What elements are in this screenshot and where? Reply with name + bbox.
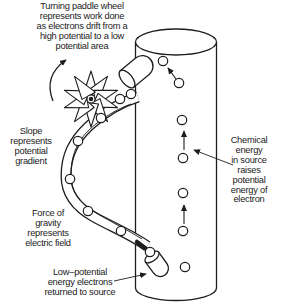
label-line: potential area — [37, 42, 128, 52]
electron-circle-icon — [178, 226, 187, 235]
electron-circle-icon — [178, 153, 187, 162]
cylinder-top-ellipse — [136, 29, 217, 55]
paddle-axle — [89, 97, 92, 100]
label-line: electric field — [25, 239, 71, 249]
source-up-arrows — [168, 68, 184, 224]
electron-circle-icon — [177, 115, 186, 124]
electron-circle-icon — [83, 206, 92, 215]
electron-circle-icon — [126, 89, 135, 98]
rotation-arrow-icon — [50, 60, 66, 101]
paddle-wheel-icon — [62, 71, 120, 127]
diagram-canvas: Turning paddle wheel represents work don… — [0, 0, 283, 304]
electron-circle-icon — [115, 94, 124, 103]
electron-circle-icon — [96, 113, 105, 122]
electron-circle-icon — [180, 262, 189, 271]
up-arrow-icon — [168, 68, 176, 79]
chemical-energy-leader-arrow — [194, 150, 233, 165]
label-line: electron — [231, 195, 268, 205]
label-line: gradient — [10, 157, 51, 167]
ramp-inner-rail — [71, 104, 142, 239]
label-line: returned to source — [45, 288, 116, 298]
outlet-tube-icon — [116, 51, 157, 90]
source-electrons — [158, 56, 189, 271]
label-gravity: Force of gravity represents electric fie… — [25, 209, 71, 249]
electron-circle-icon — [158, 56, 167, 65]
slope-ramp-icon — [66, 97, 151, 253]
label-paddle-wheel: Turning paddle wheel represents work don… — [37, 2, 128, 52]
electron-circle-icon — [178, 188, 187, 197]
label-chemical-energy: Chemical energy in source raises potenti… — [231, 136, 268, 205]
label-low-potential: Low–potential energy electrons returned … — [45, 268, 116, 298]
electron-circle-icon — [65, 174, 74, 183]
low-potential-leader-arrow — [114, 274, 146, 281]
label-slope: Slope represents potential gradient — [10, 127, 51, 167]
cylinder-bottom-arc — [136, 288, 217, 301]
electron-circle-icon — [174, 78, 183, 87]
electron-circle-icon — [145, 247, 154, 256]
electron-circle-icon — [73, 136, 82, 145]
electron-circle-icon — [116, 226, 125, 235]
